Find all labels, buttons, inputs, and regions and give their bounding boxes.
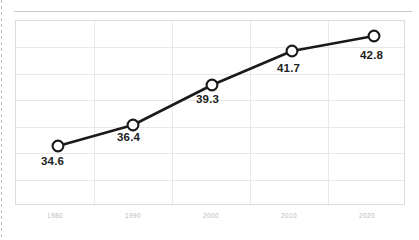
data-label-1990: 36.4 xyxy=(117,131,140,143)
xaxis-tick-1980: 1980 xyxy=(35,212,75,219)
xaxis-tick-2010: 2010 xyxy=(269,212,309,219)
data-point-marker xyxy=(128,120,139,131)
data-point-marker xyxy=(53,141,64,152)
data-point-marker xyxy=(207,80,218,91)
xaxis-tick-1990: 1990 xyxy=(113,212,153,219)
chart-screenshot: 34.6 36.4 39.3 41.7 42.8 1980 1990 2000 … xyxy=(0,0,419,240)
data-label-1980: 34.6 xyxy=(41,155,64,167)
data-point-marker xyxy=(287,46,298,57)
scan-edge-artifact xyxy=(1,0,2,240)
data-point-marker xyxy=(369,31,380,42)
series-graphic xyxy=(16,21,406,206)
clipped-title-text xyxy=(86,0,226,4)
header-divider xyxy=(14,11,412,12)
plot-area xyxy=(15,20,405,205)
data-label-2000: 39.3 xyxy=(196,93,219,105)
xaxis-tick-2020: 2020 xyxy=(347,212,387,219)
data-label-2020: 42.8 xyxy=(360,49,383,61)
data-label-2010: 41.7 xyxy=(277,62,300,74)
series-line xyxy=(58,36,374,146)
xaxis-tick-2000: 2000 xyxy=(191,212,231,219)
